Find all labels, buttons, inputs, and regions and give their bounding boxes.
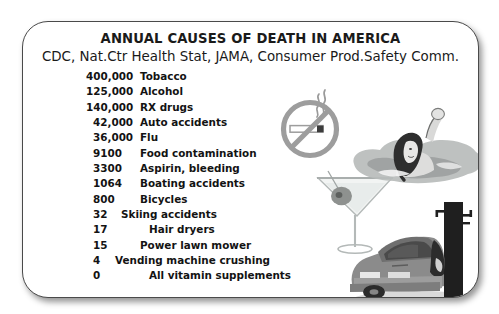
- cause-label: All vitamin supplements: [149, 268, 291, 283]
- screenshot-canvas: ANNUAL CAUSES OF DEATH IN AMERICA CDC, N…: [0, 0, 499, 314]
- cause-row: 4Vending machine crushing: [23, 253, 313, 268]
- causes-of-death-card: ANNUAL CAUSES OF DEATH IN AMERICA CDC, N…: [22, 21, 479, 298]
- cause-label: Flu: [140, 130, 158, 145]
- cause-count: 400,000: [86, 69, 133, 84]
- cause-label: Food contamination: [140, 146, 257, 161]
- cause-row: 800Bicycles: [23, 192, 313, 207]
- cause-row: 400,000Tobacco: [23, 69, 313, 84]
- cause-label: Vending machine crushing: [115, 253, 270, 268]
- cause-count: 0: [93, 268, 100, 283]
- cause-label: Alcohol: [140, 84, 183, 99]
- cause-label: Auto accidents: [140, 115, 227, 130]
- car-crash-image: [348, 200, 479, 298]
- cause-count: 32: [93, 207, 107, 222]
- cause-label: Power lawn mower: [140, 238, 251, 253]
- cause-label: Bicycles: [140, 192, 187, 207]
- cause-label: Aspirin, bleeding: [140, 161, 240, 176]
- cause-row: 42,000Auto accidents: [23, 115, 313, 130]
- cause-count: 800: [93, 192, 115, 207]
- cause-row: 36,000Flu: [23, 130, 313, 145]
- cause-row: 1064Boating accidents: [23, 176, 313, 191]
- cause-count: 140,000: [86, 100, 133, 115]
- page-title: ANNUAL CAUSES OF DEATH IN AMERICA: [23, 31, 478, 46]
- cause-label: Boating accidents: [140, 176, 245, 191]
- cause-row: 0All vitamin supplements: [23, 268, 313, 283]
- causes-list: 400,000Tobacco125,000Alcohol140,000RX dr…: [23, 69, 313, 284]
- cause-label: Hair dryers: [149, 222, 215, 237]
- drowning-swimmer-image: [348, 104, 479, 194]
- cause-count: 3300: [93, 161, 122, 176]
- cause-count: 36,000: [93, 130, 133, 145]
- cause-row: 9100Food contamination: [23, 146, 313, 161]
- cause-count: 17: [93, 222, 107, 237]
- cause-count: 4: [93, 253, 100, 268]
- cause-label: RX drugs: [140, 100, 193, 115]
- cause-row: 32Skiing accidents: [23, 207, 313, 222]
- cause-row: 17Hair dryers: [23, 222, 313, 237]
- cause-label: Skiing accidents: [121, 207, 217, 222]
- cause-row: 125,000Alcohol: [23, 84, 313, 99]
- cause-count: 9100: [93, 146, 122, 161]
- cause-count: 125,000: [86, 84, 133, 99]
- cause-count: 42,000: [93, 115, 133, 130]
- sources-subtitle: CDC, Nat.Ctr Health Stat, JAMA, Consumer…: [23, 49, 478, 64]
- cause-label: Tobacco: [140, 69, 187, 84]
- no-smoking-icon: [274, 88, 348, 162]
- cause-count: 1064: [93, 176, 122, 191]
- cause-row: 3300Aspirin, bleeding: [23, 161, 313, 176]
- cause-row: 140,000RX drugs: [23, 100, 313, 115]
- cause-count: 15: [93, 238, 107, 253]
- cause-row: 15Power lawn mower: [23, 238, 313, 253]
